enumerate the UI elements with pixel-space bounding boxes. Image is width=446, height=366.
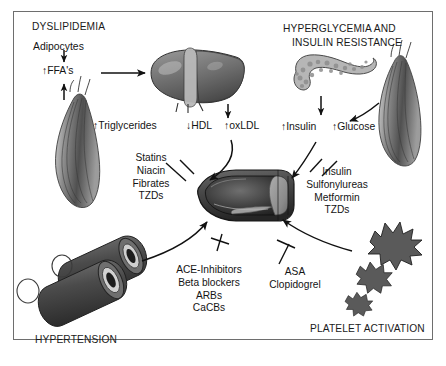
drug-clopidogrel: Clopidogrel [257, 279, 333, 292]
figure-canvas: DYSLIPIDEMIA Adipocytes ↑FFA's ↑Triglyce… [0, 0, 446, 366]
label-glucose-increase: ↑Glucose [332, 121, 375, 133]
lipid-lowering-drugs: Statins Niacin Fibrates TZDs [118, 152, 184, 203]
drug-insulin: Insulin [289, 166, 385, 179]
label-oxldl: ↑oxLDL [224, 120, 259, 132]
drug-niacin: Niacin [118, 165, 184, 178]
label-ffa: ↑FFA's [42, 65, 73, 77]
label-insulin-increase: ↑Insulin [281, 121, 316, 133]
label-triglycerides: ↑Triglycerides [93, 120, 157, 132]
antihypertensive-drugs: ACE-Inhibitors Beta blockers ARBs CaCBs [159, 264, 259, 315]
heading-hyperglycemia-line1: HYPERGLYCEMIA AND [283, 23, 396, 35]
drug-statins: Statins [118, 152, 184, 165]
glycemic-control-drugs: Insulin Sulfonylureas Metformin TZDs [289, 166, 385, 217]
heading-dyslipidemia: DYSLIPIDEMIA [32, 21, 105, 33]
drug-beta-blockers: Beta blockers [159, 277, 259, 290]
drug-tzds-glycemic: TZDs [289, 204, 385, 217]
drug-metformin: Metformin [289, 192, 385, 205]
drug-sulfonylureas: Sulfonylureas [289, 179, 385, 192]
heading-platelet-activation: PLATELET ACTIVATION [310, 323, 425, 335]
drug-asa: ASA [257, 266, 333, 279]
drug-ace-inhibitors: ACE-Inhibitors [159, 264, 259, 277]
antiplatelet-drugs: ASA Clopidogrel [257, 266, 333, 292]
drug-cacbs: CaCBs [159, 302, 259, 315]
heading-hyperglycemia-line2: INSULIN RESISTANCE [292, 37, 402, 49]
drug-fibrates: Fibrates [118, 178, 184, 191]
drug-arbs: ARBs [159, 290, 259, 303]
heading-hypertension: HYPERTENSION [35, 334, 117, 346]
label-adipocytes: Adipocytes [33, 41, 84, 53]
label-hdl: ↓HDL [186, 120, 212, 132]
drug-tzds-lipid: TZDs [118, 190, 184, 203]
